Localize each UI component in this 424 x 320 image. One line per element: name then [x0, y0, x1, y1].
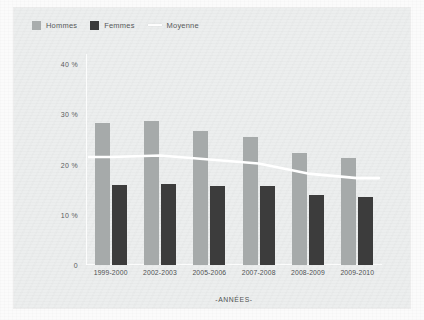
x-tick-label: 2007-2008: [234, 269, 283, 276]
legend-swatch-hommes-icon: [32, 21, 41, 30]
bar-femmes[interactable]: [161, 184, 176, 265]
bar-femmes[interactable]: [309, 195, 324, 265]
bar-hommes[interactable]: [243, 137, 258, 265]
bar-femmes[interactable]: [112, 185, 127, 265]
bar-hommes[interactable]: [341, 158, 356, 266]
bar-femmes[interactable]: [210, 186, 225, 265]
bar-group: [135, 54, 184, 265]
x-tick-label: 2008-2009: [283, 269, 332, 276]
y-tick-label: 30 %: [61, 111, 78, 118]
legend-item-femmes[interactable]: Femmes: [90, 21, 134, 30]
bar-femmes[interactable]: [358, 197, 373, 265]
y-tick-label: 0: [74, 262, 78, 269]
bar-groups: [86, 54, 382, 265]
bar-group: [234, 54, 283, 265]
bar-hommes[interactable]: [144, 121, 159, 265]
x-tick-label: 2002-2003: [135, 269, 184, 276]
legend-label-hommes: Hommes: [46, 21, 77, 30]
legend-label-femmes: Femmes: [104, 21, 134, 30]
bar-group: [86, 54, 135, 265]
y-tick-label: 40 %: [61, 61, 78, 68]
chart-legend: Hommes Femmes Moyenne: [32, 18, 199, 32]
x-tick-label: 1999-2000: [86, 269, 135, 276]
legend-item-moyenne[interactable]: Moyenne: [148, 21, 199, 30]
x-tick-label: 2009-2010: [333, 269, 382, 276]
y-tick-label: 20 %: [61, 161, 78, 168]
x-axis-title: -ANNÉES-: [86, 296, 382, 303]
bar-group: [333, 54, 382, 265]
legend-label-moyenne: Moyenne: [167, 21, 199, 30]
x-tick-label: 2005-2006: [185, 269, 234, 276]
page-background: Hommes Femmes Moyenne 010 %20 %30 %40 % …: [0, 0, 424, 320]
legend-swatch-femmes-icon: [90, 21, 99, 30]
legend-swatch-moyenne-icon: [148, 24, 162, 26]
bar-hommes[interactable]: [95, 123, 110, 265]
legend-item-hommes[interactable]: Hommes: [32, 21, 77, 30]
x-axis-tick-labels: 1999-20002002-20032005-20062007-20082008…: [86, 269, 382, 276]
chart-figure: Hommes Femmes Moyenne 010 %20 %30 %40 % …: [14, 8, 410, 308]
bar-hommes[interactable]: [292, 153, 307, 265]
bar-hommes[interactable]: [193, 131, 208, 265]
bar-femmes[interactable]: [260, 186, 275, 265]
y-tick-label: 10 %: [61, 211, 78, 218]
bar-group: [283, 54, 332, 265]
plot-area: 010 %20 %30 %40 %: [86, 54, 382, 265]
bar-group: [185, 54, 234, 265]
